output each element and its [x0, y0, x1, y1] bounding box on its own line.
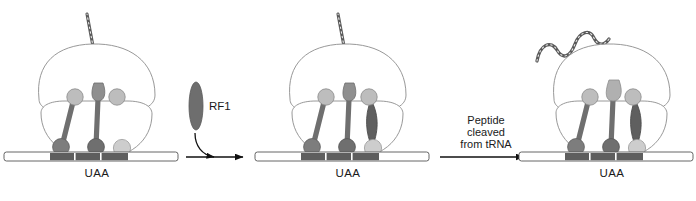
rf1-label: RF1: [209, 100, 231, 112]
mrna-strand: [4, 152, 178, 161]
transition-2-line-3: from tRNA: [460, 138, 512, 150]
transition-2-line-2: cleaved: [467, 126, 505, 138]
translation-termination-figure: UAA RF1: [0, 0, 696, 201]
mrna-strand: [255, 152, 429, 161]
rf1-molecule: [189, 82, 203, 130]
stop-codon-label: UAA: [600, 167, 625, 179]
stop-codon-label: UAA: [336, 167, 361, 179]
mrna-strand: [519, 152, 693, 161]
figure-canvas: UAA RF1: [0, 0, 696, 201]
transition-2-line-1: Peptide: [467, 114, 504, 126]
stop-codon-label: UAA: [85, 167, 110, 179]
